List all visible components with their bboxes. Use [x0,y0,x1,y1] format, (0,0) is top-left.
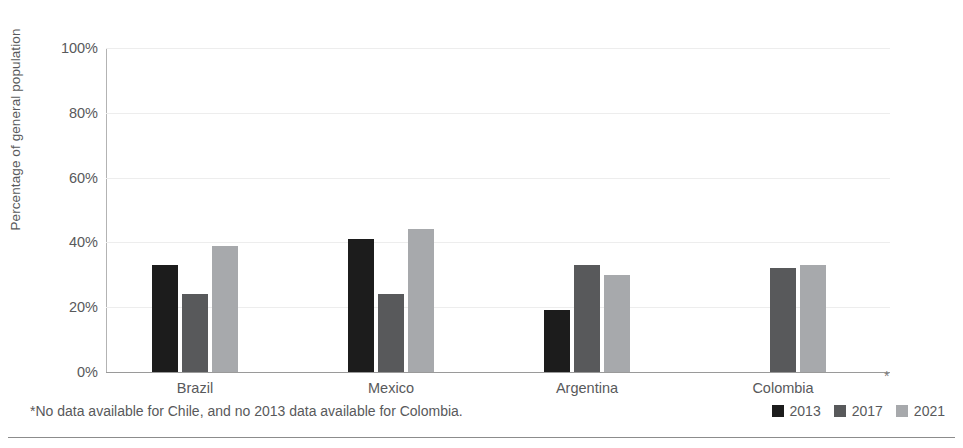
chart-legend: 201320172021 [772,404,945,418]
bar-mexico-2013 [348,239,374,372]
legend-swatch-icon [772,405,784,417]
bar-brazil-2021 [212,246,238,372]
y-tick-label: 20% [14,300,98,315]
bar-mexico-2021 [408,229,434,372]
y-tick-label: 80% [14,106,98,121]
chart-figure: 0%20%40%60%80%100% Percentage of general… [0,0,963,448]
x-category-label-mexico: Mexico [308,380,474,396]
chart-footnote: *No data available for Chile, and no 201… [30,403,463,419]
y-tick-label: 0% [14,365,98,380]
plot-area [106,48,890,372]
legend-label: 2021 [914,404,945,418]
bar-argentina-2017 [574,265,600,372]
legend-swatch-icon [834,405,846,417]
x-axis-baseline [106,372,890,373]
legend-swatch-icon [896,405,908,417]
gridline [106,48,890,49]
y-tick-label: 40% [14,235,98,250]
legend-item-2017[interactable]: 2017 [834,404,883,418]
axis-asterisk-annotation: * [884,368,889,384]
x-category-label-brazil: Brazil [112,380,278,396]
bar-mexico-2017 [378,294,404,372]
legend-item-2013[interactable]: 2013 [772,404,821,418]
gridline [106,113,890,114]
bar-argentina-2021 [604,275,630,372]
gridline [106,242,890,243]
gridline [106,178,890,179]
bottom-divider [8,437,955,438]
y-tick-label: 100% [14,41,98,56]
y-axis-title: Percentage of general population [8,0,23,260]
bar-argentina-2013 [544,310,570,372]
x-category-label-argentina: Argentina [504,380,670,396]
bar-colombia-2021 [800,265,826,372]
legend-label: 2017 [852,404,883,418]
x-category-label-colombia: Colombia [700,380,866,396]
legend-label: 2013 [790,404,821,418]
bar-colombia-2017 [770,268,796,372]
bar-brazil-2017 [182,294,208,372]
legend-item-2021[interactable]: 2021 [896,404,945,418]
y-tick-label: 60% [14,170,98,185]
bar-brazil-2013 [152,265,178,372]
